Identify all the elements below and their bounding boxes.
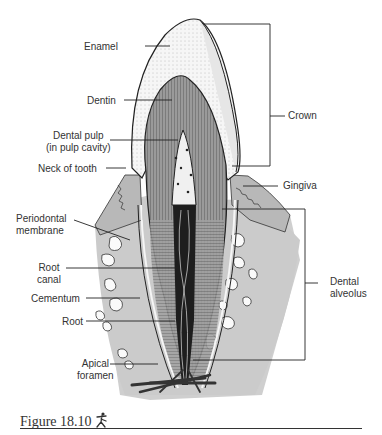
label-apical-line2: foramen: [77, 370, 114, 382]
label-root-canal-line2: canal: [37, 274, 61, 286]
label-dental-alveolus-line2: alveolus: [330, 288, 367, 300]
label-root: Root: [62, 316, 83, 328]
label-periodontal-membrane: Periodontal membrane: [16, 213, 67, 237]
label-gingiva: Gingiva: [283, 180, 317, 192]
label-dental-pulp: Dental pulp (in pulp cavity): [46, 130, 110, 154]
label-apical-foramen: Apical foramen: [77, 358, 114, 382]
label-dental-alveolus-line1: Dental: [330, 276, 367, 288]
label-crown: Crown: [288, 110, 317, 122]
running-figure-icon: [95, 412, 109, 428]
label-dental-alveolus: Dental alveolus: [330, 276, 367, 300]
label-neck-of-tooth: Neck of tooth: [38, 163, 97, 175]
label-periodontal-line2: membrane: [16, 225, 67, 237]
label-enamel: Enamel: [84, 41, 118, 53]
label-dentin: Dentin: [87, 95, 116, 107]
label-dental-pulp-line2: (in pulp cavity): [46, 142, 110, 154]
label-apical-line1: Apical: [77, 358, 114, 370]
label-periodontal-line1: Periodontal: [16, 213, 67, 225]
label-root-canal: Root canal: [37, 262, 61, 286]
label-dental-pulp-line1: Dental pulp: [46, 130, 110, 142]
caption-rule: [20, 428, 362, 429]
figure-caption-text: Figure 18.10: [20, 414, 92, 429]
label-root-canal-line1: Root: [37, 262, 61, 274]
label-cementum: Cementum: [31, 293, 80, 305]
